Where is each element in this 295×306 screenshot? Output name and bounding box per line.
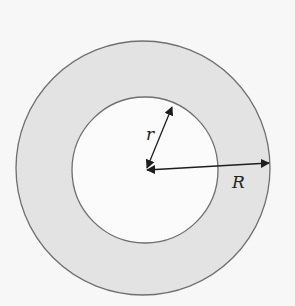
inner-radius-label: r	[146, 124, 155, 144]
annulus-diagram: r R	[0, 0, 295, 306]
inner-circle	[72, 97, 218, 243]
outer-radius-label: R	[231, 172, 245, 192]
